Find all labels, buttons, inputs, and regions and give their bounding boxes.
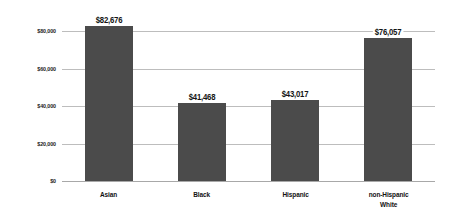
y-axis-tick-label-40000: $40,000 [16, 102, 56, 110]
bar-hispanic[interactable] [271, 100, 319, 181]
x-axis-label-hispanic: Hispanic [253, 190, 337, 200]
x-axis-label-non-hispanic-white-line1: non-Hispanic [368, 190, 408, 199]
bar-value-label-black: $41,468 [187, 92, 217, 102]
bar-value-label-hispanic: $43,017 [280, 89, 310, 99]
y-axis-tick-label-80000: $80,000 [16, 27, 56, 35]
bar-value-label-asian: $82,676 [93, 15, 123, 25]
bar-group-black: $41,468 [155, 31, 248, 181]
y-axis-tick-label-0: $0 [16, 177, 56, 185]
bar-non-hispanic-white[interactable] [364, 38, 412, 181]
bar-group-hispanic: $43,017 [249, 31, 342, 181]
bar-group-asian: $82,676 [62, 31, 155, 181]
x-axis-label-hispanic-line1: Hispanic [282, 190, 308, 199]
gridline-baseline-0 [62, 181, 435, 182]
x-axis-category-labels: Asian Black Hispanic non-Hispanic White [62, 190, 435, 220]
x-axis-label-asian: Asian [67, 190, 151, 200]
bar-group-non-hispanic-white: $76,057 [342, 31, 435, 181]
x-axis-label-non-hispanic-white: non-Hispanic White [346, 190, 430, 209]
bar-black[interactable] [178, 103, 226, 181]
x-axis-label-black-line1: Black [193, 190, 210, 199]
bar-asian[interactable] [85, 26, 133, 181]
x-axis-label-black: Black [160, 190, 244, 200]
y-axis-tick-labels: $80,000 $60,000 $40,000 $20,000 $0 [6, 31, 56, 181]
y-axis-tick-label-60000: $60,000 [16, 65, 56, 73]
bar-chart: $80,000 $60,000 $40,000 $20,000 $0 $82,6… [0, 0, 455, 224]
x-axis-label-asian-line1: Asian [100, 190, 117, 199]
bar-value-label-non-hispanic-white: $76,057 [373, 27, 403, 37]
x-axis-label-non-hispanic-white-line2: White [346, 200, 430, 210]
bars-layer: $82,676 $41,468 $43,017 $76,057 [62, 31, 435, 181]
y-axis-tick-label-20000: $20,000 [16, 140, 56, 148]
